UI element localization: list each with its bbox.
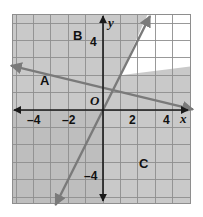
region-label-b: B	[73, 29, 82, 42]
y-tick-4: 4	[90, 36, 97, 48]
x-tick-minus4: –4	[27, 114, 40, 126]
x-tick-4: 4	[163, 114, 170, 126]
origin-label: O	[90, 94, 99, 107]
x-tick-2: 2	[129, 114, 136, 126]
shaded-regions	[12, 14, 190, 203]
coordinate-plane-svg	[0, 0, 203, 217]
y-axis-label: y	[108, 16, 114, 29]
x-axis-label: x	[180, 112, 187, 125]
coordinate-plane-figure: A B C O y x –4 –2 2 4 4 –4	[0, 0, 203, 217]
y-tick-minus4: –4	[84, 170, 97, 182]
region-label-a: A	[40, 74, 49, 87]
x-tick-minus2: –2	[62, 114, 75, 126]
region-label-c: C	[139, 157, 148, 170]
